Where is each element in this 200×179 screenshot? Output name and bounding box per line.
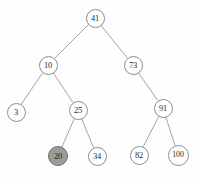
tree-edge-91-to-82 bbox=[143, 116, 158, 146]
tree-node-82[interactable]: 82 bbox=[130, 146, 149, 165]
tree-node-label: 41 bbox=[91, 13, 99, 22]
tree-node-100[interactable]: 100 bbox=[168, 145, 189, 166]
tree-edge-41-to-73 bbox=[101, 25, 127, 57]
tree-node-73[interactable]: 73 bbox=[124, 56, 143, 75]
tree-edge-25-to-34 bbox=[82, 119, 94, 147]
tree-node-label: 25 bbox=[74, 105, 82, 114]
tree-node-label: 3 bbox=[14, 107, 18, 116]
tree-node-label: 91 bbox=[159, 103, 167, 112]
tree-edge-41-to-10 bbox=[55, 25, 89, 59]
tree-edge-10-to-25 bbox=[53, 73, 72, 102]
tree-node-25[interactable]: 25 bbox=[69, 101, 88, 120]
tree-node-91[interactable]: 91 bbox=[154, 99, 173, 118]
tree-edge-91-to-100 bbox=[166, 117, 175, 145]
tree-node-3[interactable]: 3 bbox=[7, 103, 26, 122]
tree-edge-73-to-91 bbox=[138, 73, 157, 100]
tree-edge-10-to-3 bbox=[21, 73, 42, 104]
tree-node-41[interactable]: 41 bbox=[86, 9, 105, 28]
tree-edge-25-to-20 bbox=[62, 119, 74, 147]
tree-node-label: 20 bbox=[54, 151, 62, 160]
tree-node-label: 82 bbox=[135, 150, 143, 159]
tree-node-label: 73 bbox=[129, 60, 137, 69]
binary-search-tree-diagram: 41107332591203482100 bbox=[0, 0, 200, 179]
tree-node-label: 10 bbox=[44, 60, 52, 69]
tree-node-label: 34 bbox=[93, 151, 101, 160]
tree-node-20[interactable]: 20 bbox=[48, 146, 68, 166]
tree-node-34[interactable]: 34 bbox=[88, 147, 107, 166]
tree-node-label: 100 bbox=[172, 151, 183, 159]
tree-node-10[interactable]: 10 bbox=[39, 56, 58, 75]
